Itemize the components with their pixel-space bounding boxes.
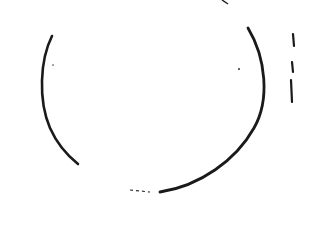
circle-arc-left [42, 36, 78, 164]
speck [238, 68, 240, 70]
side-mark [291, 34, 294, 102]
circle-arc-bottom-faint [130, 190, 150, 192]
sketch-canvas [0, 0, 318, 230]
circle-arc-right [160, 28, 264, 192]
speck [52, 64, 54, 66]
top-mark [222, 0, 228, 4]
